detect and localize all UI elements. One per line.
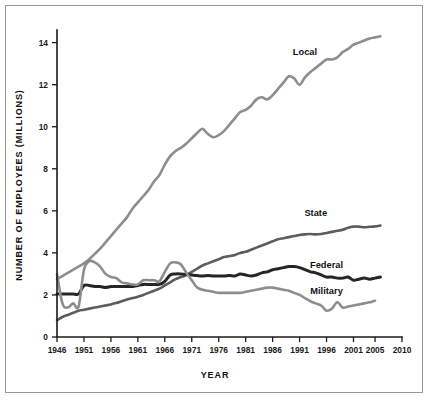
x-tick-label: 1976 [209, 345, 228, 355]
line-chart: 0246810121419461951195619611966197119761… [0, 0, 430, 408]
x-tick-label: 1946 [48, 345, 67, 355]
y-tick-label: 12 [39, 80, 49, 90]
x-axis-title: YEAR [201, 370, 230, 380]
x-tick-label: 1996 [317, 345, 336, 355]
y-tick-label: 6 [43, 206, 48, 216]
y-tick-label: 14 [39, 38, 49, 48]
x-tick-label: 1981 [236, 345, 255, 355]
y-tick-label: 0 [43, 332, 48, 342]
x-tick-label: 1961 [129, 345, 148, 355]
x-tick-label: 1991 [290, 345, 309, 355]
series-group [57, 36, 380, 320]
figure-container: 0246810121419461951195619611966197119761… [0, 0, 430, 408]
y-tick-label: 8 [43, 164, 48, 174]
x-tick-label: 2005 [366, 345, 385, 355]
x-tick-label: 1971 [182, 345, 201, 355]
x-tick-label: 2001 [344, 345, 363, 355]
series-label-state: State [304, 208, 327, 218]
x-tick-label: 1956 [102, 345, 121, 355]
x-tick-label: 1951 [75, 345, 94, 355]
y-tick-label: 10 [39, 122, 49, 132]
x-tick-label: 1966 [155, 345, 174, 355]
y-tick-label: 2 [43, 290, 48, 300]
series-line-local [57, 36, 380, 279]
series-label-federal: Federal [310, 260, 343, 270]
y-tick-label: 4 [43, 248, 48, 258]
axes-group [52, 30, 402, 342]
x-tick-label: 1986 [263, 345, 282, 355]
axis-spine [57, 30, 402, 337]
y-axis-title: NUMBER OF EMPLOYEES (MILLIONS) [14, 89, 24, 281]
x-tick-label: 2010 [393, 345, 412, 355]
series-label-local: Local [293, 47, 317, 57]
series-label-military: Military [310, 286, 343, 296]
